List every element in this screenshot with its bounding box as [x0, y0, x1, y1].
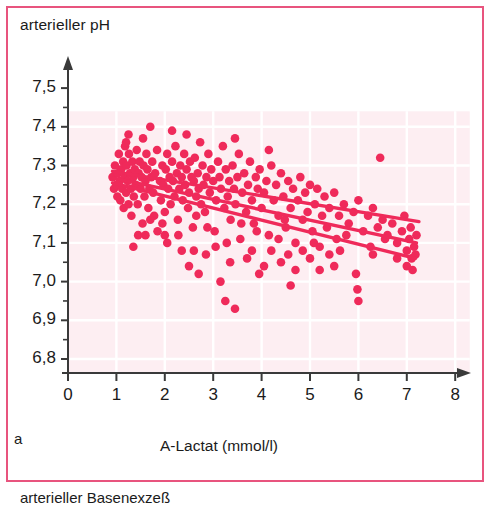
y-tick-label: 6,8	[14, 348, 56, 368]
y-tick-label: 6,9	[14, 309, 56, 329]
x-tick-label: 0	[53, 385, 83, 405]
x-tick-label: 8	[440, 385, 470, 405]
panel-letter: a	[14, 430, 22, 447]
y-tick-label: 7,3	[14, 155, 56, 175]
x-tick-label: 1	[101, 385, 131, 405]
y-axis-title: arterieller pH	[20, 16, 110, 34]
y-tick-label: 7,5	[14, 77, 56, 97]
caption-below: arterieller Basenexzeß	[20, 489, 170, 506]
y-tick-label: 7,0	[14, 271, 56, 291]
x-axis-title: A-Lactat (mmol/l)	[160, 437, 278, 455]
x-tick-label: 2	[150, 385, 180, 405]
x-tick-label: 3	[198, 385, 228, 405]
x-tick-label: 4	[247, 385, 277, 405]
y-tick-label: 7,2	[14, 193, 56, 213]
x-tick-label: 5	[295, 385, 325, 405]
y-tick-label: 7,1	[14, 232, 56, 252]
x-tick-label: 7	[392, 385, 422, 405]
y-tick-label: 7,4	[14, 116, 56, 136]
figure-page: arterieller pH a A-Lactat (mmol/l) arter…	[0, 0, 492, 516]
figure-frame	[6, 6, 484, 482]
x-tick-label: 6	[343, 385, 373, 405]
